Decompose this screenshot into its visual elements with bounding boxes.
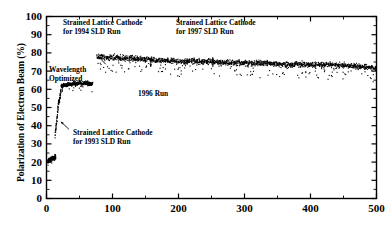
plot-frame	[47, 17, 377, 199]
annotation-line: for 1997 SLD Run	[176, 28, 256, 37]
annotation-line: Optimized	[49, 75, 86, 84]
polarization-chart-figure: Polarization of Electron Beam (%) 010203…	[0, 0, 389, 234]
annotation-1997-sld-run: Strained Lattice Cathodefor 1997 SLD Run	[176, 19, 256, 36]
data-points	[47, 53, 377, 165]
annotation-line: for 1993 SLD Run	[73, 138, 153, 147]
annotation-1993-sld-run: Strained Lattice Cathodefor 1993 SLD Run	[73, 129, 153, 146]
annotation-line: for 1994 SLD Run	[63, 28, 143, 37]
annotation-wavelength-optimized: WavelengthOptimized	[49, 66, 86, 83]
annotation-1996-run: 1996 Run	[138, 90, 168, 99]
annotation-1994-sld-run: Strained Lattice Cathodefor 1994 SLD Run	[63, 19, 143, 36]
annotation-line: 1996 Run	[138, 90, 168, 99]
axis-ticks	[47, 17, 377, 199]
